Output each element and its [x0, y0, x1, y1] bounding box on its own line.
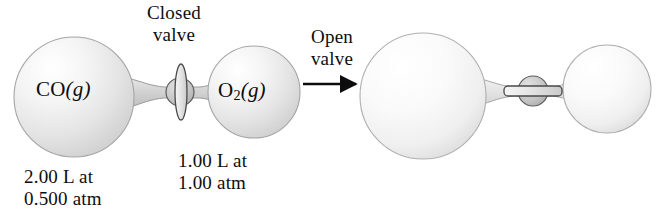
open-valve-label: Open valve [296, 26, 368, 69]
gas-label-left: CO(g) [36, 78, 91, 102]
caption-left-flask: 2.00 L at 0.500 atm [24, 166, 102, 209]
valve-handle-horizontal [504, 86, 562, 96]
valve-open-icon[interactable] [504, 76, 562, 106]
closed-valve-label: Closed valve [126, 2, 222, 45]
gas-right-subscript: 2 [233, 87, 240, 103]
gas-right-state: (g) [241, 78, 266, 102]
caption-left-volume: 2.00 L at [24, 166, 102, 188]
caption-right-pressure: 1.00 atm [178, 172, 247, 194]
closed-valve-label-line2: valve [126, 24, 222, 46]
apparatus-after [360, 33, 651, 159]
caption-right-volume: 1.00 L at [178, 150, 247, 172]
flask-left-after [360, 33, 486, 159]
closed-valve-label-line1: Closed [126, 2, 222, 24]
valve-closed-icon[interactable] [166, 64, 194, 120]
gas-left-formula: CO [36, 77, 66, 101]
gas-left-state: (g) [66, 77, 91, 101]
open-valve-label-line2: valve [296, 48, 368, 70]
valve-handle-vertical [175, 64, 187, 120]
gas-right-formula: O [218, 78, 233, 102]
caption-left-pressure: 0.500 atm [24, 188, 102, 210]
gas-label-right: O2(g) [218, 79, 266, 103]
open-valve-label-line1: Open [296, 26, 368, 48]
flask-right-after [563, 45, 651, 133]
caption-right-flask: 1.00 L at 1.00 atm [178, 150, 247, 193]
